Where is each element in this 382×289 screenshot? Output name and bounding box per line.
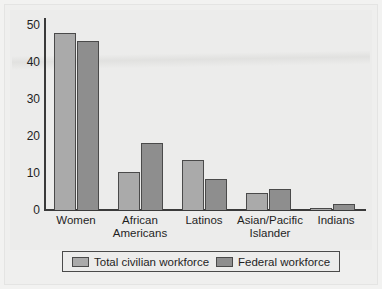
legend-label-federal: Federal workforce (238, 256, 330, 268)
bar-group-latinos (172, 18, 236, 210)
x-label-asian-pacific-islander-line-1: Asian/Pacific (234, 214, 306, 227)
y-tick-30: 30 (10, 93, 40, 105)
bar-indians-federal (333, 204, 355, 210)
x-label-african-americans: African Americans (108, 214, 172, 239)
bar-asian-pacific-islander-federal (269, 189, 291, 210)
y-axis-tick-labels: 50 40 30 20 10 0 (6, 0, 40, 289)
bar-latinos-civilian (182, 160, 204, 210)
bar-indians-civilian (310, 208, 332, 210)
bar-group-indians (300, 18, 364, 210)
legend-label-civilian: Total civilian workforce (94, 256, 209, 268)
bar-african-americans-federal (141, 143, 163, 210)
legend-entry-civilian: Total civilian workforce (72, 256, 209, 268)
chart-legend: Total civilian workforce Federal workfor… (62, 251, 340, 272)
x-label-women-line-1: Women (44, 214, 108, 227)
legend-entry-federal: Federal workforce (216, 256, 330, 268)
bar-asian-pacific-islander-civilian (246, 193, 268, 210)
y-tick-0: 0 (10, 204, 40, 216)
x-label-african-americans-line-2: Americans (108, 227, 172, 240)
bar-women-civilian (54, 33, 76, 210)
x-label-indians-line-1: Indians (306, 214, 366, 227)
bar-african-americans-civilian (118, 172, 140, 210)
y-tick-40: 40 (10, 56, 40, 68)
chart-figure: 50 40 30 20 10 0 (0, 0, 382, 289)
bar-latinos-federal (205, 179, 227, 210)
legend-swatch-federal-icon (216, 257, 233, 267)
y-tick-10: 10 (10, 167, 40, 179)
x-label-indians: Indians (306, 214, 366, 227)
bar-group-asian-pacific-islander (236, 18, 300, 210)
x-label-asian-pacific-islander: Asian/Pacific Islander (234, 214, 306, 239)
x-label-african-americans-line-1: African (108, 214, 172, 227)
legend-swatch-civilian-icon (72, 257, 89, 267)
x-label-asian-pacific-islander-line-2: Islander (234, 227, 306, 240)
x-label-latinos-line-1: Latinos (172, 214, 236, 227)
bar-women-federal (77, 41, 99, 210)
y-tick-50: 50 (10, 19, 40, 31)
x-label-women: Women (44, 214, 108, 227)
bar-group-african-americans (108, 18, 172, 210)
x-label-latinos: Latinos (172, 214, 236, 227)
y-tick-20: 20 (10, 130, 40, 142)
plot-area (44, 18, 364, 210)
bar-group-women (44, 18, 108, 210)
